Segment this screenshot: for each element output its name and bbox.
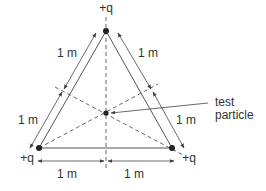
median-from-bottom-right xyxy=(55,87,183,155)
dimension-label-bottom-right: 1 m xyxy=(124,167,144,181)
charge-top-label: +q xyxy=(99,1,113,15)
test-particle-label-line2: particle xyxy=(215,108,254,122)
dimension-label-right-upper: 1 m xyxy=(138,46,158,60)
dimension-label-right-lower: 1 m xyxy=(176,113,196,127)
dimension-label-left-upper: 1 m xyxy=(57,46,77,60)
test-particle-point xyxy=(103,110,108,115)
dimension-label-bottom-left: 1 m xyxy=(57,167,77,181)
dimension-arrow-left-upper xyxy=(64,33,96,89)
dimension-label-left-lower: 1 m xyxy=(18,113,38,127)
charge-bottom-right-point xyxy=(169,145,175,151)
equilateral-triangle-diagram: +q +q +q 1 m 1 m 1 m 1 m 1 m 1 m test pa… xyxy=(0,0,266,191)
charge-top-point xyxy=(103,28,109,34)
test-particle-label-line1: test xyxy=(215,95,235,109)
charge-bottom-left-point xyxy=(36,145,42,151)
charge-bottom-left-label: +q xyxy=(20,151,34,165)
charge-bottom-right-label: +q xyxy=(182,151,196,165)
